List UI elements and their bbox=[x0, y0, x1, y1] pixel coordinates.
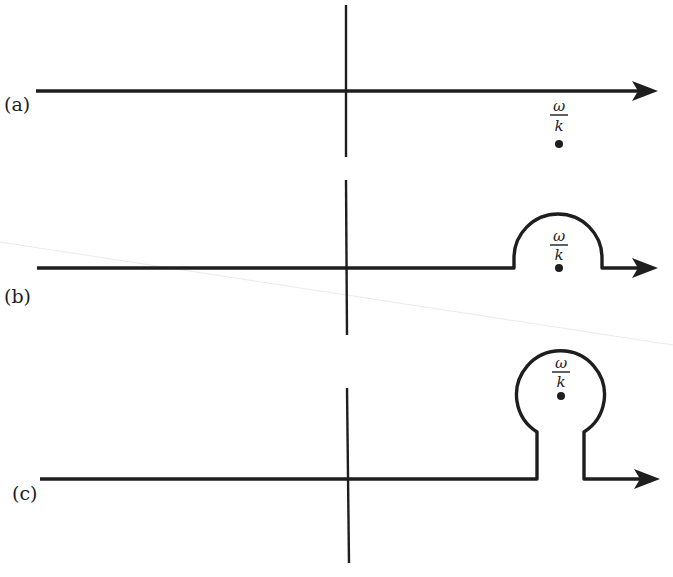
contour-diagram: (a) ω k (b) ω k (c) ω k bbox=[0, 0, 673, 577]
pole-denominator-a: k bbox=[554, 117, 563, 135]
pole-denominator-c: k bbox=[556, 373, 565, 391]
pole-label-b: ω k bbox=[550, 227, 568, 264]
pole-denominator-b: k bbox=[554, 246, 563, 264]
imaginary-axis-c bbox=[347, 388, 349, 563]
contour-c bbox=[40, 351, 642, 479]
pole-numerator-c: ω bbox=[555, 354, 567, 372]
panel-label-a: (a) bbox=[4, 93, 30, 115]
imaginary-axis-b bbox=[346, 180, 347, 335]
pole-label-c: ω k bbox=[552, 354, 570, 391]
panel-label-b: (b) bbox=[4, 285, 31, 307]
pole-label-a: ω k bbox=[550, 97, 568, 135]
panel-a: (a) ω k bbox=[4, 5, 658, 157]
contour-b bbox=[37, 214, 640, 268]
pole-dot-c bbox=[557, 392, 565, 400]
panel-c: (c) ω k bbox=[12, 351, 660, 563]
pole-numerator-b: ω bbox=[553, 227, 565, 245]
panel-label-c: (c) bbox=[12, 482, 37, 504]
scan-artifact bbox=[0, 242, 673, 345]
pole-dot-b bbox=[555, 264, 563, 272]
pole-numerator-a: ω bbox=[553, 97, 565, 115]
pole-dot-a bbox=[555, 140, 563, 148]
